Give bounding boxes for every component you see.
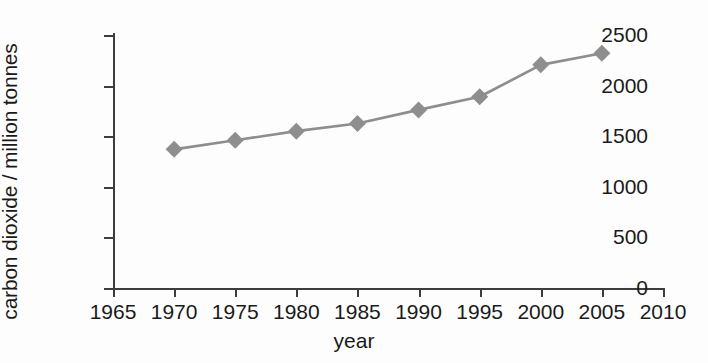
data-point-marker bbox=[349, 115, 366, 132]
series-layer bbox=[0, 0, 708, 363]
data-point-marker bbox=[532, 56, 549, 73]
data-point-marker bbox=[471, 88, 488, 105]
line-chart: carbon dioxide / million tonnes year 050… bbox=[0, 0, 708, 363]
data-point-marker bbox=[288, 123, 305, 140]
data-point-marker bbox=[593, 45, 610, 62]
data-point-marker bbox=[227, 132, 244, 149]
data-point-marker bbox=[166, 141, 183, 158]
data-point-marker bbox=[410, 101, 427, 118]
